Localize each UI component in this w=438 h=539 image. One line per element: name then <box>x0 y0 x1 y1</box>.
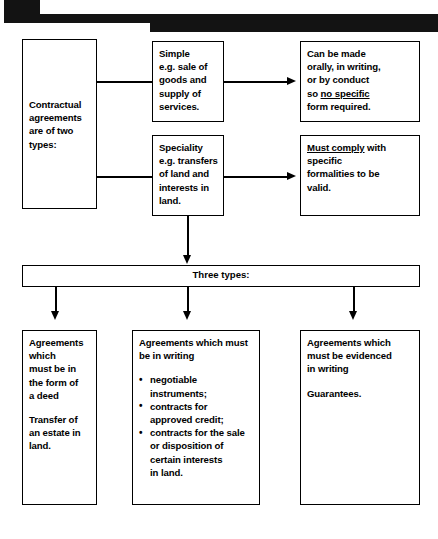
result1-line-1: orally, in writing, <box>307 60 414 73</box>
list-item: contracts for the sale or disposition of… <box>139 426 254 479</box>
outcome3-head-2: in writing <box>307 362 414 375</box>
outcome3-head-0: Agreements which <box>307 336 414 349</box>
simple-line-3: supply of <box>159 87 218 100</box>
result2-line-2: formalities to be <box>307 167 414 180</box>
arrowhead-outcome-2-icon <box>183 311 191 320</box>
connector-simple-to-result <box>224 81 287 83</box>
root-line-0: Contractual <box>29 98 91 111</box>
result1-line-4: form required. <box>307 100 414 113</box>
arrowhead-simple-to-result-icon <box>287 77 296 85</box>
outcome1-body-0: Transfer of <box>29 413 91 426</box>
result2-with-text: with <box>365 142 386 153</box>
box-speciality-form-requirement: Must comply with specific formalities to… <box>300 135 420 216</box>
outcome1-head-0: Agreements <box>29 336 91 349</box>
result2-line-1: specific <box>307 154 414 167</box>
outcome1-spacer <box>29 402 91 413</box>
simple-line-1: e.g. sale of <box>159 60 218 73</box>
outcome1-head-2: must be in <box>29 362 91 375</box>
speciality-line-4: land. <box>159 194 218 207</box>
arrowhead-outcome-1-icon <box>51 311 59 320</box>
root-line-3: types: <box>29 138 91 151</box>
connector-root-to-simple <box>97 81 153 83</box>
result2-underlined-phrase: Must comply <box>307 142 365 153</box>
outcome2-b2-l2: certain interests <box>150 453 254 466</box>
outcome1-body-2: land. <box>29 439 91 452</box>
connector-down-to-three-types <box>187 216 189 257</box>
root-line-1: agreements <box>29 111 91 124</box>
outcome2-b1-l1: approved credit; <box>150 413 254 426</box>
top-black-banner <box>0 0 438 32</box>
outcome1-body-1: an estate in <box>29 426 91 439</box>
arrowhead-speciality-to-result-icon <box>287 172 296 180</box>
arrowhead-outcome-3-icon <box>349 311 357 320</box>
outcome2-b2-l3: in land. <box>150 466 254 479</box>
box-contractual-agreements: Contractual agreements are of two types: <box>22 39 97 209</box>
outcome2-b2-l0: contracts for the sale <box>150 426 254 439</box>
result1-so-text: so <box>307 88 321 99</box>
box-agreements-evidenced-in-writing: Agreements which must be evidenced in wr… <box>300 330 420 505</box>
three-types-label: Three types: <box>192 269 249 280</box>
outcome2-spacer <box>139 362 254 373</box>
result2-line-3: valid. <box>307 181 414 194</box>
simple-line-4: services. <box>159 100 218 113</box>
result1-line-3: so no specific <box>307 87 414 100</box>
box-simple: Simple e.g. sale of goods and supply of … <box>152 41 224 122</box>
simple-line-0: Simple <box>159 47 218 60</box>
speciality-line-3: interests in <box>159 181 218 194</box>
box-simple-form-requirement: Can be made orally, in writing, or by co… <box>300 41 420 122</box>
outcome1-head-3: the form of <box>29 376 91 389</box>
box-agreements-must-be-in-writing: Agreements which must be in writing nego… <box>132 330 260 505</box>
result1-line-2: or by conduct <box>307 73 414 86</box>
three-types-divider: Three types: <box>22 265 420 287</box>
connector-bar-to-outcome-3 <box>353 287 355 313</box>
outcome2-b1-l0: contracts for <box>150 400 254 413</box>
outcome2-bullet-list: negotiable instruments; contracts for ap… <box>139 373 254 479</box>
speciality-line-2: of land and <box>159 167 218 180</box>
arrowhead-down-to-three-types-icon <box>183 255 191 264</box>
speciality-line-1: e.g. transfers <box>159 154 218 167</box>
speciality-line-0: Speciality <box>159 141 218 154</box>
connector-speciality-to-result <box>224 176 287 178</box>
simple-line-2: goods and <box>159 73 218 86</box>
outcome2-b2-l1: or disposition of <box>150 439 254 452</box>
box-agreements-form-of-deed: Agreements which must be in the form of … <box>22 330 97 505</box>
outcome2-head-0: Agreements which must <box>139 336 254 349</box>
list-item: negotiable instruments; <box>139 373 254 399</box>
outcome2-b0-l0: negotiable <box>150 373 254 386</box>
outcome1-head-1: which <box>29 349 91 362</box>
box-speciality: Speciality e.g. transfers of land and in… <box>152 135 224 216</box>
root-line-2: are of two <box>29 125 91 138</box>
outcome3-head-1: must be evidenced <box>307 349 414 362</box>
result1-underlined-phrase: no specific <box>321 88 370 99</box>
connector-bar-to-outcome-1 <box>55 287 57 313</box>
outcome2-b0-l1: instruments; <box>150 387 254 400</box>
outcome2-head-1: be in writing <box>139 349 254 362</box>
connector-bar-to-outcome-2 <box>187 287 189 313</box>
result1-line-0: Can be made <box>307 47 414 60</box>
connector-root-to-speciality <box>97 176 153 178</box>
result2-line-0: Must comply with <box>307 141 414 154</box>
list-item: contracts for approved credit; <box>139 400 254 426</box>
outcome3-body-0: Guarantees. <box>307 387 414 400</box>
outcome3-spacer <box>307 376 414 387</box>
banner-bar-thick <box>150 14 438 32</box>
outcome1-head-4: a deed <box>29 389 91 402</box>
